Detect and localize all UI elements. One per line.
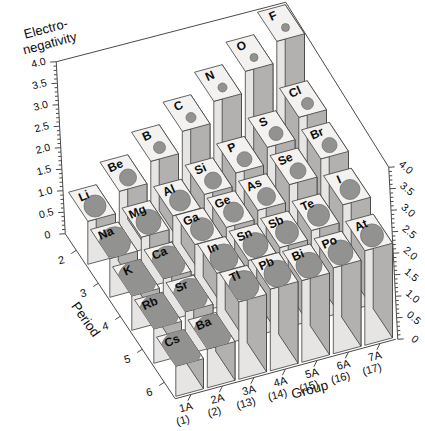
atom-size-dot-Br [322,138,337,153]
atom-size-dot-As [258,188,276,206]
atom-size-dot-P [237,152,252,167]
atom-size-dot-Cl [302,98,314,110]
atom-size-dot-N [218,83,227,92]
atom-size-dot-Be [120,169,137,186]
atom-size-dot-Se [290,163,306,179]
figure-electronegativity-3d-chart: 00.51.01.52.02.53.03.54.0Electro-negativ… [0,0,425,431]
atom-size-dot-S [269,127,283,141]
atom-size-dot-F [282,24,290,32]
atom-size-dot-C [186,113,196,123]
atom-size-dot-I [340,180,360,200]
atom-size-dot-B [154,142,166,154]
atom-size-dot-Si [205,172,222,189]
chart-canvas: 00.51.01.52.02.53.03.54.0Electro-negativ… [0,0,425,431]
atom-size-dot-O [250,54,258,62]
